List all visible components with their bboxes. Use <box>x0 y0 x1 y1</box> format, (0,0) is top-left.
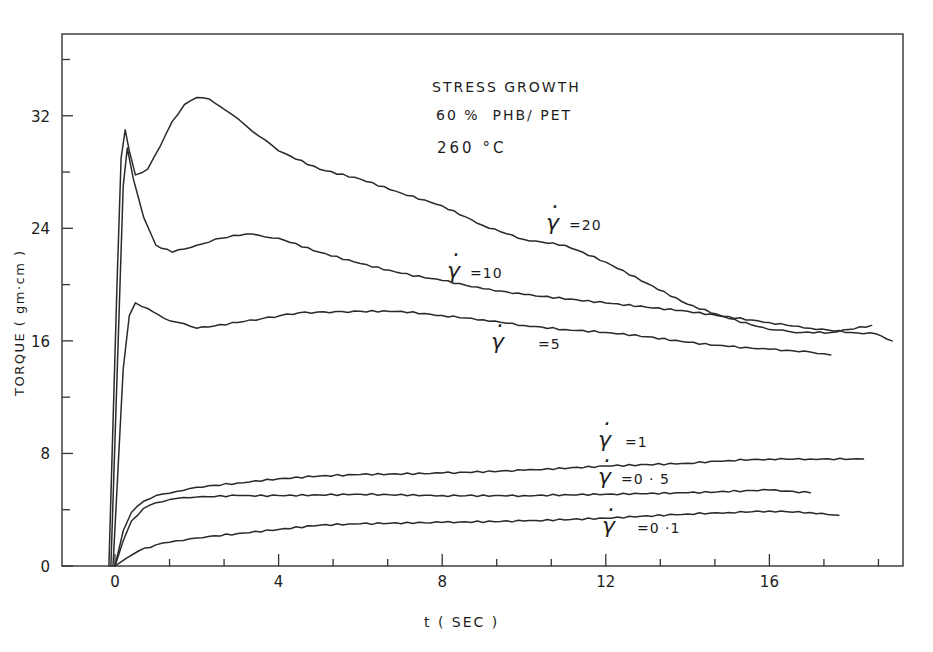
x-tick-label: 0 <box>110 573 120 591</box>
y-tick-label: 24 <box>31 220 50 238</box>
y-axis-label: TORQUE ( gm·cm ) <box>12 249 27 396</box>
curve-0-1 <box>115 511 839 566</box>
series-value: =20 <box>569 217 602 233</box>
gamma-dot-symbol: γ <box>491 329 504 354</box>
gamma-dot-symbol: γ <box>598 464 611 489</box>
series-value: =10 <box>470 265 503 281</box>
series-label-20: γ =20 <box>546 210 602 235</box>
stress-growth-chart: 081624320481216 <box>0 0 933 652</box>
gamma-dot-symbol: γ <box>546 210 559 235</box>
series-value: =0 ·1 <box>637 520 680 536</box>
series-value: =1 <box>625 434 648 450</box>
curve-0-5 <box>115 490 810 567</box>
y-tick-label: 16 <box>31 333 50 351</box>
x-axis-label: t ( SEC ) <box>424 614 499 630</box>
x-tick-label: 16 <box>760 573 779 591</box>
gamma-dot-symbol: γ <box>447 258 460 283</box>
curve-5 <box>113 303 831 566</box>
temperature-annotation: 260 °C <box>437 139 506 157</box>
y-tick-label: 8 <box>40 445 50 463</box>
chart-title: STRESS GROWTH <box>432 79 581 95</box>
series-label-5: γ =5 <box>491 329 561 354</box>
series-value: =0 · 5 <box>621 471 670 487</box>
series-label-10: γ =10 <box>447 258 503 283</box>
x-tick-label: 4 <box>274 573 284 591</box>
gamma-dot-symbol: γ <box>602 513 615 538</box>
series-label-0-5: γ =0 · 5 <box>598 464 670 489</box>
x-tick-label: 12 <box>596 573 615 591</box>
curve-10 <box>111 148 892 566</box>
series-value: =5 <box>538 336 561 352</box>
y-tick-label: 0 <box>40 558 50 576</box>
series-label-0-1: γ =0 ·1 <box>602 513 680 538</box>
chart-subtitle: 60 % PHB/ PET <box>436 107 572 123</box>
y-tick-label: 32 <box>31 108 50 126</box>
x-tick-label: 8 <box>437 573 447 591</box>
